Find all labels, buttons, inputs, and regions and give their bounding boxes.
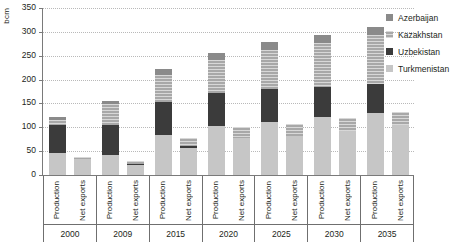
x-year-label: 2015 bbox=[150, 225, 202, 242]
segment-turkmenistan bbox=[127, 165, 144, 175]
x-year-label: 2025 bbox=[255, 225, 307, 242]
bar-group-2030 bbox=[308, 8, 361, 175]
x-series-row: ProductionNet exports bbox=[255, 176, 307, 225]
x-series-row: ProductionNet exports bbox=[308, 176, 360, 225]
x-group-2035: ProductionNet exports2035 bbox=[360, 176, 414, 242]
legend-swatch-icon bbox=[386, 31, 393, 38]
bar-2015-net-exports[interactable] bbox=[180, 138, 197, 175]
segment-uzbekistan bbox=[49, 125, 66, 153]
x-group-2030: ProductionNet exports2030 bbox=[307, 176, 360, 242]
segment-turkmenistan bbox=[102, 155, 119, 175]
x-series-row: ProductionNet exports bbox=[97, 176, 149, 225]
x-group-2015: ProductionNet exports2015 bbox=[149, 176, 202, 242]
plot-area: 050100150200250300350 bbox=[42, 8, 414, 176]
bar-2035-net-exports[interactable] bbox=[392, 112, 409, 175]
bar-2025-net-exports[interactable] bbox=[286, 124, 303, 175]
bar-group-2000 bbox=[43, 8, 96, 175]
x-year-label: 2009 bbox=[97, 225, 149, 242]
segment-uzbekistan bbox=[314, 87, 331, 117]
bar-2009-production[interactable] bbox=[102, 101, 119, 175]
bar-group-2009 bbox=[96, 8, 149, 175]
legend-label: Uzbekistan bbox=[398, 47, 440, 57]
legend-label: Kazakhstan bbox=[398, 30, 442, 40]
segment-azerbaijan bbox=[208, 53, 225, 60]
legend-swatch-icon bbox=[386, 65, 393, 72]
bar-group-2020 bbox=[202, 8, 255, 175]
y-axis-unit-label: bcm bbox=[2, 8, 11, 24]
x-series-row: ProductionNet exports bbox=[361, 176, 413, 225]
segment-kazakhstan bbox=[155, 75, 172, 101]
x-year-label: 2000 bbox=[44, 225, 96, 242]
y-tick-label: 250 bbox=[22, 50, 36, 60]
x-series-label-net-exports: Net exports bbox=[176, 176, 202, 224]
segment-uzbekistan bbox=[102, 125, 119, 155]
x-series-label-production: Production bbox=[203, 176, 229, 224]
bar-2025-production[interactable] bbox=[261, 42, 278, 175]
segment-kazakhstan bbox=[286, 124, 303, 136]
segment-azerbaijan bbox=[367, 27, 384, 36]
x-series-label-production: Production bbox=[150, 176, 176, 224]
segment-turkmenistan bbox=[49, 153, 66, 175]
segment-kazakhstan bbox=[208, 60, 225, 93]
segment-turkmenistan bbox=[339, 131, 356, 175]
segment-turkmenistan bbox=[74, 159, 91, 175]
segment-turkmenistan bbox=[208, 126, 225, 175]
y-tick-label: 200 bbox=[22, 74, 36, 84]
segment-uzbekistan bbox=[208, 93, 225, 126]
segment-turkmenistan bbox=[233, 138, 250, 175]
bar-2030-production[interactable] bbox=[314, 35, 331, 175]
bar-group-2025 bbox=[255, 8, 308, 175]
x-year-label: 2030 bbox=[308, 225, 360, 242]
x-year-label: 2020 bbox=[203, 225, 255, 242]
y-tick-label: 0 bbox=[31, 169, 36, 179]
segment-azerbaijan bbox=[261, 42, 278, 50]
bar-2030-net-exports[interactable] bbox=[339, 118, 356, 175]
x-group-2000: ProductionNet exports2000 bbox=[43, 176, 96, 242]
bar-2000-production[interactable] bbox=[49, 117, 66, 175]
bar-2020-net-exports[interactable] bbox=[233, 127, 250, 175]
x-axis-label-table: ProductionNet exports2000ProductionNet e… bbox=[43, 176, 414, 242]
x-series-label-net-exports: Net exports bbox=[70, 176, 96, 224]
x-series-row: ProductionNet exports bbox=[150, 176, 202, 225]
legend-swatch-icon bbox=[386, 14, 393, 21]
bars-layer bbox=[43, 8, 414, 175]
x-series-label-net-exports: Net exports bbox=[123, 176, 149, 224]
x-group-2020: ProductionNet exports2020 bbox=[202, 176, 255, 242]
x-year-label: 2035 bbox=[361, 225, 413, 242]
stacked-bar-chart-figure: bcm 050100150200250300350 ProductionNet … bbox=[0, 0, 464, 247]
x-series-row: ProductionNet exports bbox=[203, 176, 255, 225]
legend-item-kazakhstan[interactable]: Kazakhstan bbox=[386, 26, 464, 43]
x-series-label-net-exports: Net exports bbox=[334, 176, 360, 224]
bar-2035-production[interactable] bbox=[367, 27, 384, 175]
bar-2000-net-exports[interactable] bbox=[74, 157, 91, 175]
segment-uzbekistan bbox=[367, 84, 384, 113]
segment-turkmenistan bbox=[155, 135, 172, 175]
y-tick-label: 350 bbox=[22, 2, 36, 12]
legend-item-turkmenistan[interactable]: Turkmenistan bbox=[386, 60, 464, 77]
segment-uzbekistan bbox=[261, 89, 278, 121]
x-series-label-net-exports: Net exports bbox=[281, 176, 307, 224]
segment-turkmenistan bbox=[367, 113, 384, 175]
legend-label: Turkmenistan bbox=[398, 64, 449, 74]
x-series-label-production: Production bbox=[44, 176, 70, 224]
segment-turkmenistan bbox=[286, 136, 303, 175]
y-tick-label: 100 bbox=[22, 121, 36, 131]
segment-turkmenistan bbox=[314, 117, 331, 175]
y-tick-label: 50 bbox=[27, 145, 36, 155]
y-tick-label: 150 bbox=[22, 97, 36, 107]
bar-2009-net-exports[interactable] bbox=[127, 161, 144, 175]
bar-2020-production[interactable] bbox=[208, 53, 225, 175]
legend-label: Azerbaijan bbox=[398, 13, 438, 23]
legend-item-azerbaijan[interactable]: Azerbaijan bbox=[386, 9, 464, 26]
segment-turkmenistan bbox=[180, 148, 197, 175]
bar-2015-production[interactable] bbox=[155, 69, 172, 175]
segment-azerbaijan bbox=[314, 35, 331, 43]
segment-kazakhstan bbox=[314, 43, 331, 87]
segment-kazakhstan bbox=[339, 118, 356, 131]
x-series-label-net-exports: Net exports bbox=[387, 176, 413, 224]
legend-swatch-icon bbox=[386, 48, 393, 55]
x-group-2025: ProductionNet exports2025 bbox=[254, 176, 307, 242]
x-series-label-production: Production bbox=[361, 176, 387, 224]
x-series-label-production: Production bbox=[255, 176, 281, 224]
legend-item-uzbekistan[interactable]: Uzbekistan bbox=[386, 43, 464, 60]
